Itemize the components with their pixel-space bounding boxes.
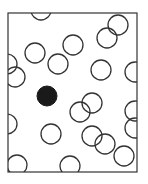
open-circle — [97, 28, 117, 48]
open-circle — [91, 60, 111, 80]
open-circle — [48, 54, 68, 74]
open-circle — [108, 15, 128, 35]
open-circle — [60, 156, 80, 176]
open-circle — [114, 146, 134, 166]
filled-circle — [37, 86, 57, 106]
open-circle — [25, 43, 45, 63]
circles-diagram — [0, 0, 148, 184]
open-circle — [31, 0, 51, 20]
open-circle — [63, 35, 83, 55]
open-circle — [41, 124, 61, 144]
circles-group — [0, 0, 145, 176]
open-circle — [125, 62, 145, 82]
